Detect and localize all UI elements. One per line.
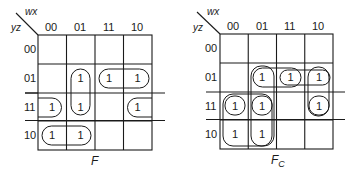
cell-01-10: 1	[124, 73, 152, 84]
cell-11-01: 1	[67, 102, 95, 113]
col-label: 10	[312, 21, 324, 32]
row-label: 01	[205, 72, 217, 83]
karnaugh-map-fc: wx yz 00 01 11 10 00 01 11 10 1 1 1 1 1 …	[179, 0, 358, 173]
col-label: 01	[74, 22, 86, 33]
col-variable-label: wx	[25, 6, 37, 17]
row-label: 00	[205, 43, 217, 54]
map-caption: F	[91, 154, 98, 170]
col-label: 01	[256, 21, 268, 32]
cell-10-00: 1	[221, 129, 249, 140]
cell-01-10: 1	[305, 72, 333, 83]
col-label: 00	[45, 22, 57, 33]
cell-11-10: 1	[305, 101, 333, 112]
cell-01-01: 1	[67, 73, 95, 84]
row-label: 01	[24, 73, 36, 84]
row-label: 10	[205, 129, 217, 140]
cell-10-00: 1	[38, 130, 66, 141]
cell-01-11: 1	[277, 72, 305, 83]
col-label: 11	[103, 22, 114, 33]
col-label: 10	[131, 22, 143, 33]
col-label: 00	[227, 21, 239, 32]
row-label: 10	[24, 130, 36, 141]
kmap-f-grid	[0, 0, 179, 173]
map-caption: FC	[271, 153, 285, 169]
row-label: 11	[205, 101, 216, 112]
row-variable-label: yz	[11, 22, 21, 33]
cell-01-11: 1	[95, 73, 123, 84]
row-label: 00	[24, 44, 36, 55]
cell-10-01: 1	[67, 130, 95, 141]
row-variable-label: yz	[193, 22, 203, 33]
cell-10-01: 1	[248, 129, 276, 140]
cell-01-01: 1	[248, 72, 276, 83]
karnaugh-map-f: wx yz 00 01 11 10 00 01 11 10 1 1 1 1 1 …	[0, 0, 179, 173]
cell-11-01: 1	[248, 101, 276, 112]
col-variable-label: wx	[207, 6, 219, 17]
cell-11-00: 1	[38, 102, 66, 113]
cell-11-00: 1	[221, 101, 249, 112]
row-label: 11	[24, 102, 35, 113]
col-label: 11	[284, 21, 295, 32]
kmap-fc-grid	[179, 0, 358, 173]
cell-11-10: 1	[124, 102, 152, 113]
